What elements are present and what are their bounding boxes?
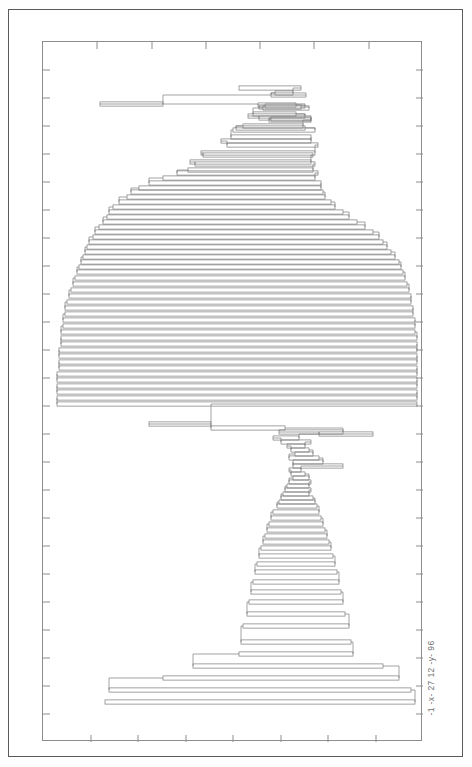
span-bar (267, 528, 325, 532)
span-connector (211, 404, 417, 424)
span-bar (287, 484, 309, 488)
span-bar (227, 143, 318, 147)
span-bar (99, 225, 365, 229)
span-connector (149, 178, 163, 183)
span-connector (100, 104, 258, 105)
span-connector (103, 217, 107, 222)
span-connector (305, 128, 315, 130)
span-bar (247, 612, 345, 616)
span-connector (89, 237, 93, 242)
span-bar (127, 195, 325, 199)
span-bar (83, 255, 395, 259)
span-bar (107, 215, 349, 219)
span-bar (65, 312, 413, 316)
span-bar (177, 171, 318, 175)
span-bar (261, 546, 331, 550)
span-bar (265, 534, 327, 538)
span-bar (221, 139, 311, 143)
span-bar (77, 270, 403, 274)
span-connector (119, 197, 127, 202)
span-bar (241, 640, 351, 644)
span-bar (71, 288, 409, 292)
span-bar (87, 245, 387, 249)
span-bar (193, 664, 383, 668)
span-bar (63, 324, 415, 328)
span-connector (190, 162, 195, 164)
span-bar (57, 378, 417, 382)
span-connector (248, 116, 259, 118)
span-bar (59, 366, 417, 370)
span-connector (391, 252, 395, 257)
span-bar (251, 590, 341, 594)
span-connector (383, 242, 387, 247)
span-bar (231, 135, 311, 139)
span-bar (249, 600, 343, 604)
span-bar (273, 510, 319, 514)
span-bar (59, 348, 417, 352)
span-bar (289, 456, 319, 460)
span-bar (188, 168, 313, 172)
span-bar (257, 562, 335, 566)
span-connector (331, 202, 335, 207)
span-bar (163, 676, 399, 680)
span-bar (293, 476, 309, 480)
plot-canvas (43, 42, 423, 742)
span-bar (263, 540, 329, 544)
axis-range-label: -1 -x- 27 12 -y- 96 (423, 622, 439, 740)
axis-range-label-text: -1 -x- 27 12 -y- 96 (426, 619, 436, 737)
span-connector (177, 170, 188, 173)
span-connector (315, 173, 318, 178)
span-bar (105, 700, 415, 704)
span-bar (81, 260, 399, 264)
span-bar (243, 624, 349, 628)
span-bar (285, 488, 311, 492)
span-bar (109, 210, 343, 214)
span-bar (131, 190, 323, 194)
span-bar (59, 360, 417, 364)
span-bar (277, 504, 317, 508)
span-connector (373, 232, 379, 237)
span-bar (281, 496, 313, 500)
span-bar (89, 240, 383, 244)
span-bar (57, 390, 417, 394)
span-bar (57, 396, 417, 400)
span-bar (239, 86, 301, 90)
span-bar (271, 516, 321, 520)
span-bar (149, 181, 321, 185)
span-connector (95, 227, 99, 232)
span-bar (113, 205, 335, 209)
span-bar (69, 294, 411, 298)
span-bar (95, 230, 373, 234)
span-bar (59, 354, 417, 358)
plot-frame (42, 41, 422, 741)
span-bar (119, 200, 331, 204)
span-bar (61, 336, 417, 340)
span-bar (289, 480, 311, 484)
span-bar (61, 330, 415, 334)
span-connector (357, 222, 365, 227)
span-bar (259, 554, 333, 558)
span-bar (57, 372, 417, 376)
span-connector (343, 212, 349, 217)
span-bar (67, 300, 411, 304)
span-bar (211, 426, 285, 430)
span-bar (57, 384, 417, 388)
span-bar (163, 176, 315, 180)
span-bar (93, 235, 379, 239)
span-bar (139, 186, 321, 190)
span-bar (255, 570, 337, 574)
span-bar (279, 500, 315, 504)
span-bar (295, 452, 313, 456)
outer-page-frame: -1 -x- 27 12 -y- 96 (8, 9, 463, 757)
span-bar (73, 282, 407, 286)
span-bar (291, 472, 305, 476)
span-bar (63, 318, 415, 322)
span-bar (283, 492, 309, 496)
span-connector (315, 145, 318, 153)
span-bar (79, 265, 401, 269)
span-bar (61, 342, 417, 346)
bars-layer (57, 86, 417, 704)
span-bar (293, 460, 323, 464)
page-root: -1 -x- 27 12 -y- 96 (0, 0, 472, 767)
span-bar (75, 276, 405, 280)
